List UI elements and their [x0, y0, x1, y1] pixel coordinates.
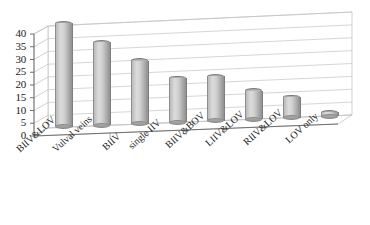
y-tick-label-10: 10 — [6, 105, 26, 116]
bar-body-1 — [93, 42, 111, 125]
bar-body-0 — [55, 23, 73, 127]
bar-bottom-ellipse-5 — [245, 117, 262, 122]
bar-1 — [93, 42, 109, 125]
bar-0 — [55, 23, 71, 127]
bar-bottom-ellipse-7 — [321, 114, 338, 119]
bar-5 — [245, 91, 261, 120]
bar-chart: 40 35 30 25 20 15 10 5 0 — [0, 0, 370, 225]
y-tick-label-15: 15 — [6, 92, 26, 103]
bar-body-4 — [207, 76, 225, 120]
bar-bottom-ellipse-6 — [283, 115, 300, 120]
y-tick-label-5: 5 — [6, 117, 26, 128]
y-tick-label-30: 30 — [6, 54, 26, 65]
y-tick-label-25: 25 — [6, 66, 26, 77]
bar-body-5 — [245, 91, 263, 120]
bar-body-3 — [169, 78, 187, 122]
y-tick-label-40: 40 — [6, 28, 26, 39]
bar-7 — [321, 112, 337, 116]
y-tick-label-20: 20 — [6, 79, 26, 90]
bar-2 — [131, 61, 147, 124]
bar-3 — [169, 78, 185, 122]
y-axis-ticks — [30, 34, 34, 136]
bar-body-2 — [131, 61, 149, 124]
bar-6 — [283, 97, 299, 118]
bar-bottom-ellipse-1 — [93, 123, 110, 128]
y-tick-label-35: 35 — [6, 41, 26, 52]
bar-4 — [207, 76, 223, 120]
